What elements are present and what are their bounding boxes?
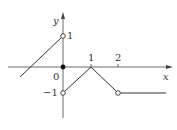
x-tick-label-2: 2 (115, 52, 121, 63)
filled-point-origin (61, 65, 66, 70)
open-point-0-1 (61, 34, 66, 39)
function-graph: y x 0 1 −1 1 2 (0, 0, 177, 130)
open-point-0-neg1 (61, 91, 66, 96)
y-tick-label-1: 1 (67, 30, 73, 41)
y-tick-label-neg1: −1 (43, 87, 58, 98)
origin-label: 0 (53, 71, 59, 82)
x-tick-label-1: 1 (88, 52, 94, 63)
x-axis-label: x (163, 71, 169, 82)
segment-fall (91, 67, 117, 92)
x-axis-arrow-icon (166, 65, 173, 69)
y-axis-arrow-icon (61, 12, 65, 19)
segment-rise (65, 67, 92, 92)
y-axis-label: y (52, 15, 59, 26)
open-point-2-neg1 (116, 91, 121, 96)
